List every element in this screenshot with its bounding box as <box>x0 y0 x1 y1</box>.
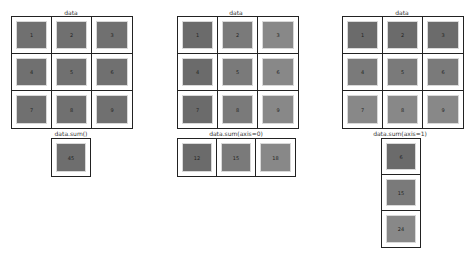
cell-value: 7 <box>196 107 199 113</box>
array-cell: 5 <box>383 54 423 91</box>
cell-fill: 1 <box>347 21 378 49</box>
cell-fill: 7 <box>347 95 378 124</box>
array-cell: 4 <box>12 54 52 91</box>
array-cell: 9 <box>258 91 298 128</box>
array-cell: 7 <box>12 91 52 128</box>
array-cell: 8 <box>52 91 92 128</box>
cell-fill: 24 <box>386 215 416 243</box>
cell-value: 1 <box>30 32 33 38</box>
cell-fill: 6 <box>386 143 416 170</box>
cell-fill: 4 <box>182 58 213 86</box>
cell-value: 7 <box>361 107 364 113</box>
array-cell: 5 <box>52 54 92 91</box>
result-array-grid: 45 <box>51 138 91 177</box>
data-array-grid: 123456789 <box>11 16 133 129</box>
cell-value: 7 <box>30 107 33 113</box>
cell-value: 6 <box>110 69 113 75</box>
array-cell: 45 <box>52 139 90 176</box>
array-cell: 7 <box>343 91 383 128</box>
array-cell: 6 <box>382 139 420 175</box>
cell-value: 24 <box>398 226 404 232</box>
cell-fill: 9 <box>427 95 459 124</box>
cell-fill: 5 <box>222 58 253 86</box>
array-cell: 6 <box>258 54 298 91</box>
cell-value: 15 <box>233 155 239 161</box>
array-cell: 8 <box>383 91 423 128</box>
cell-fill: 15 <box>221 143 251 172</box>
cell-fill: 9 <box>262 95 294 124</box>
array-cell: 2 <box>218 17 258 54</box>
cell-fill: 3 <box>427 21 459 49</box>
cell-fill: 4 <box>16 58 47 86</box>
cell-value: 5 <box>236 69 239 75</box>
array-cell: 1 <box>12 17 52 54</box>
cell-value: 4 <box>30 69 33 75</box>
cell-fill: 18 <box>260 143 291 172</box>
array-cell: 15 <box>382 175 420 211</box>
cell-value: 2 <box>401 32 404 38</box>
array-cell: 2 <box>383 17 423 54</box>
cell-value: 6 <box>441 69 444 75</box>
cell-value: 4 <box>361 69 364 75</box>
array-cell: 4 <box>343 54 383 91</box>
data-title: data <box>41 9 101 16</box>
cell-value: 1 <box>196 32 199 38</box>
array-cell: 6 <box>92 54 132 91</box>
cell-value: 5 <box>401 69 404 75</box>
array-cell: 6 <box>423 54 463 91</box>
array-cell: 9 <box>92 91 132 128</box>
cell-fill: 4 <box>347 58 378 86</box>
cell-value: 3 <box>276 32 279 38</box>
data-title: data <box>206 9 266 16</box>
cell-fill: 6 <box>427 58 459 86</box>
data-title: data <box>372 9 432 16</box>
cell-value: 3 <box>110 32 113 38</box>
array-cell: 15 <box>217 139 256 176</box>
array-cell: 3 <box>92 17 132 54</box>
result-title: data.sum(axis=1) <box>360 130 440 137</box>
cell-value: 8 <box>70 107 73 113</box>
cell-fill: 8 <box>56 95 87 124</box>
cell-value: 12 <box>194 155 200 161</box>
cell-value: 45 <box>68 155 74 161</box>
data-array-grid: 123456789 <box>342 16 464 129</box>
cell-value: 2 <box>236 32 239 38</box>
cell-value: 15 <box>398 190 404 196</box>
array-cell: 2 <box>52 17 92 54</box>
cell-value: 6 <box>276 69 279 75</box>
cell-fill: 2 <box>222 21 253 49</box>
array-cell: 9 <box>423 91 463 128</box>
cell-fill: 15 <box>386 179 416 206</box>
cell-fill: 2 <box>56 21 87 49</box>
cell-value: 8 <box>236 107 239 113</box>
cell-fill: 6 <box>96 58 128 86</box>
cell-fill: 6 <box>262 58 294 86</box>
cell-fill: 8 <box>222 95 253 124</box>
data-array-grid: 123456789 <box>177 16 299 129</box>
cell-fill: 7 <box>182 95 213 124</box>
cell-value: 6 <box>399 154 402 160</box>
cell-value: 2 <box>70 32 73 38</box>
cell-fill: 1 <box>182 21 213 49</box>
array-cell: 5 <box>218 54 258 91</box>
result-array-grid: 61524 <box>381 138 421 248</box>
cell-fill: 5 <box>56 58 87 86</box>
array-cell: 7 <box>178 91 218 128</box>
cell-fill: 8 <box>387 95 418 124</box>
cell-fill: 3 <box>262 21 294 49</box>
result-array-grid: 121518 <box>177 138 296 177</box>
array-cell: 3 <box>423 17 463 54</box>
cell-value: 9 <box>441 107 444 113</box>
cell-fill: 3 <box>96 21 128 49</box>
result-title: data.sum(axis=0) <box>196 130 276 137</box>
array-cell: 3 <box>258 17 298 54</box>
array-cell: 8 <box>218 91 258 128</box>
cell-value: 5 <box>70 69 73 75</box>
array-cell: 1 <box>343 17 383 54</box>
array-cell: 12 <box>178 139 217 176</box>
cell-fill: 12 <box>182 143 212 172</box>
cell-value: 3 <box>441 32 444 38</box>
result-title: data.sum() <box>31 130 111 137</box>
cell-value: 9 <box>276 107 279 113</box>
cell-fill: 2 <box>387 21 418 49</box>
